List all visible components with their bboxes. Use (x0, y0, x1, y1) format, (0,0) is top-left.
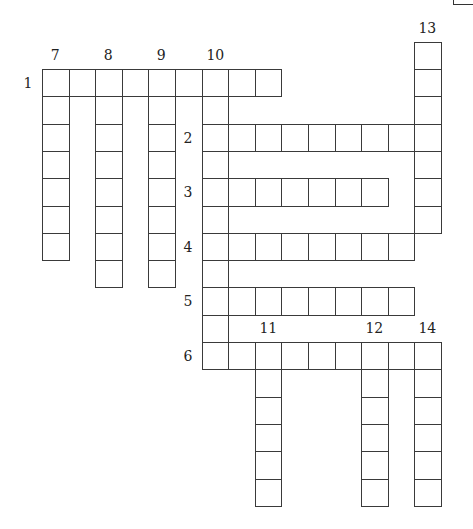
grid-cell[interactable] (228, 342, 256, 370)
grid-cell[interactable] (388, 124, 415, 152)
clue-number-across-5: 5 (184, 294, 193, 308)
grid-cell[interactable] (95, 69, 123, 97)
grid-cell[interactable] (414, 424, 442, 452)
grid-cell[interactable] (69, 69, 96, 97)
grid-cell[interactable] (255, 342, 282, 370)
grid-cell[interactable] (281, 233, 309, 261)
grid-cell[interactable] (388, 342, 415, 370)
grid-cell[interactable] (148, 206, 176, 234)
grid-cell[interactable] (202, 260, 229, 288)
grid-cell[interactable] (202, 206, 229, 234)
grid-cell[interactable] (361, 233, 389, 261)
grid-cell[interactable] (95, 96, 123, 125)
grid-cell[interactable] (255, 369, 282, 398)
grid-cell[interactable] (308, 178, 336, 207)
grid-cell[interactable] (148, 124, 176, 152)
clue-number-down-9: 9 (157, 48, 166, 62)
grid-cell[interactable] (414, 178, 442, 207)
grid-cell[interactable] (308, 287, 336, 316)
grid-cell[interactable] (202, 287, 229, 316)
grid-cell[interactable] (95, 124, 123, 152)
grid-cell[interactable] (202, 69, 229, 97)
grid-cell[interactable] (255, 451, 282, 480)
grid-cell[interactable] (388, 233, 415, 261)
grid-cell[interactable] (148, 178, 176, 207)
grid-cell[interactable] (361, 342, 389, 370)
grid-cell[interactable] (148, 96, 176, 125)
grid-cell[interactable] (42, 151, 70, 179)
grid-cell[interactable] (255, 178, 282, 207)
grid-cell[interactable] (95, 151, 123, 179)
grid-cell[interactable] (148, 260, 176, 288)
grid-cell[interactable] (361, 178, 389, 207)
grid-cell[interactable] (414, 451, 442, 480)
grid-cell[interactable] (202, 124, 229, 152)
grid-cell[interactable] (202, 96, 229, 125)
grid-cell[interactable] (95, 233, 123, 261)
grid-cell[interactable] (202, 342, 229, 370)
grid-cell[interactable] (308, 342, 336, 370)
clue-number-across-4: 4 (184, 240, 193, 254)
grid-cell[interactable] (228, 287, 256, 316)
grid-cell[interactable] (361, 451, 389, 480)
grid-cell[interactable] (414, 69, 442, 97)
grid-cell[interactable] (361, 124, 389, 152)
grid-cell[interactable] (148, 151, 176, 179)
grid-cell[interactable] (42, 124, 70, 152)
grid-cell[interactable] (148, 233, 176, 261)
grid-cell[interactable] (308, 233, 336, 261)
grid-cell[interactable] (335, 287, 362, 316)
grid-cell[interactable] (255, 424, 282, 452)
grid-cell[interactable] (308, 124, 336, 152)
grid-cell[interactable] (414, 397, 442, 425)
grid-cell[interactable] (148, 69, 176, 97)
grid-cell[interactable] (414, 151, 442, 179)
grid-cell[interactable] (42, 206, 70, 234)
grid-cell[interactable] (202, 151, 229, 179)
grid-cell[interactable] (414, 206, 442, 234)
grid-cell[interactable] (255, 124, 282, 152)
grid-cell[interactable] (281, 124, 309, 152)
clue-number-down-8: 8 (104, 48, 113, 62)
grid-cell[interactable] (202, 178, 229, 207)
grid-cell[interactable] (414, 124, 442, 152)
grid-cell[interactable] (255, 233, 282, 261)
grid-cell[interactable] (228, 69, 256, 97)
grid-cell[interactable] (414, 369, 442, 398)
grid-cell[interactable] (255, 287, 282, 316)
grid-cell[interactable] (281, 342, 309, 370)
grid-cell[interactable] (175, 69, 203, 97)
grid-cell[interactable] (95, 178, 123, 207)
grid-cell[interactable] (414, 342, 442, 370)
grid-cell[interactable] (335, 342, 362, 370)
grid-cell[interactable] (202, 315, 229, 343)
grid-cell[interactable] (361, 287, 389, 316)
grid-cell[interactable] (95, 260, 123, 288)
grid-cell[interactable] (95, 206, 123, 234)
grid-cell[interactable] (414, 96, 442, 125)
grid-cell[interactable] (42, 96, 70, 125)
grid-cell[interactable] (255, 69, 282, 97)
grid-cell[interactable] (281, 178, 309, 207)
grid-cell[interactable] (335, 178, 362, 207)
grid-cell[interactable] (228, 178, 256, 207)
grid-cell[interactable] (414, 479, 442, 507)
grid-cell[interactable] (202, 233, 229, 261)
grid-cell[interactable] (255, 397, 282, 425)
grid-cell[interactable] (388, 287, 415, 316)
grid-cell[interactable] (335, 233, 362, 261)
grid-cell[interactable] (42, 233, 70, 261)
grid-cell[interactable] (335, 124, 362, 152)
grid-cell[interactable] (361, 479, 389, 507)
grid-cell[interactable] (228, 124, 256, 152)
grid-cell[interactable] (228, 233, 256, 261)
grid-cell[interactable] (42, 69, 70, 97)
grid-cell[interactable] (281, 287, 309, 316)
grid-cell[interactable] (42, 178, 70, 207)
grid-cell[interactable] (122, 69, 149, 97)
grid-cell[interactable] (361, 424, 389, 452)
grid-cell[interactable] (361, 397, 389, 425)
grid-cell[interactable] (414, 42, 442, 70)
grid-cell[interactable] (361, 369, 389, 398)
grid-cell[interactable] (255, 479, 282, 507)
